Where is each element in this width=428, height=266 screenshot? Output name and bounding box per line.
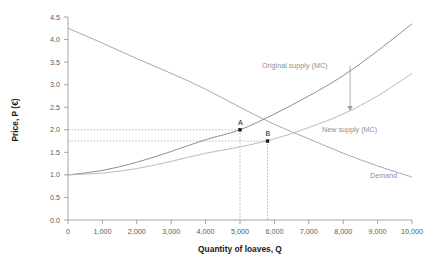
point-label-a: A — [238, 118, 243, 127]
y-tick-label: 4.5 — [50, 13, 60, 22]
curve-group — [68, 24, 412, 177]
x-tick-label: 7,000 — [300, 227, 318, 236]
y-tick-label: 4.0 — [50, 35, 60, 44]
y-tick-label: 2.0 — [50, 125, 60, 134]
x-tick-label: 5,000 — [231, 227, 249, 236]
y-axis-title: Price, P (€) — [10, 98, 20, 141]
y-axis-ticks: 0.00.51.01.52.02.53.03.54.04.5 — [50, 13, 68, 225]
y-tick-label: 1.0 — [50, 170, 60, 179]
chart-canvas: 0.00.51.01.52.02.53.03.54.04.5 01,0002,0… — [0, 0, 428, 266]
x-tick-label: 4,000 — [197, 227, 215, 236]
x-tick-label: 10,000 — [401, 227, 423, 236]
y-tick-label: 2.5 — [50, 103, 60, 112]
x-tick-label: 2,000 — [128, 227, 146, 236]
x-axis-title: Quantity of loaves, Q — [198, 244, 282, 254]
demand-label: Demand — [370, 171, 397, 180]
x-tick-label: 0 — [66, 227, 70, 236]
x-axis-ticks: 01,0002,0003,0004,0005,0006,0007,0008,00… — [66, 220, 423, 236]
y-tick-label: 1.5 — [50, 148, 60, 157]
point-label-b: B — [266, 129, 271, 138]
point-marker-b — [266, 139, 269, 142]
y-tick-label: 3.5 — [50, 58, 60, 67]
guide-lines — [68, 130, 268, 220]
y-tick-label: 3.0 — [50, 80, 60, 89]
x-tick-label: 9,000 — [369, 227, 387, 236]
curve-demand — [68, 28, 412, 177]
original-supply-label: Original supply (MC) — [262, 61, 328, 70]
supply-demand-chart: 0.00.51.01.52.02.53.03.54.04.5 01,0002,0… — [0, 0, 428, 266]
y-tick-label: 0.5 — [50, 193, 60, 202]
x-tick-label: 1,000 — [93, 227, 111, 236]
x-tick-label: 6,000 — [265, 227, 283, 236]
y-tick-label: 0.0 — [50, 216, 60, 225]
new-supply-label: New supply (MC) — [322, 125, 377, 134]
point-marker-a — [238, 128, 241, 131]
x-tick-label: 3,000 — [162, 227, 180, 236]
x-tick-label: 8,000 — [334, 227, 352, 236]
intersection-points: AB — [238, 118, 271, 143]
